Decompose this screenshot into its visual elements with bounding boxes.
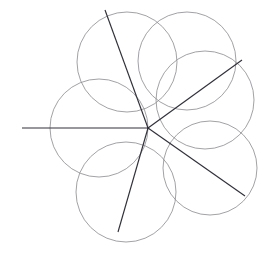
geometry-figure-canvas [0,0,271,258]
rosette-diagram [0,0,271,258]
common-intersection-point [147,127,149,129]
common-point-group [147,127,149,129]
